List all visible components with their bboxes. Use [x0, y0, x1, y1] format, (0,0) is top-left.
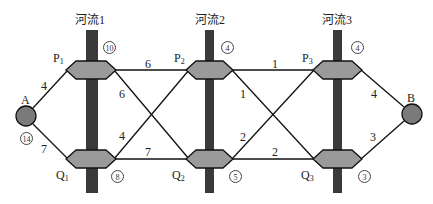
label-A: A [21, 94, 30, 106]
weight-P2-P3: 1 [272, 58, 278, 70]
bridge-P1 [66, 61, 116, 79]
capacity-Q3: 3 [358, 170, 371, 183]
label-B: B [407, 92, 415, 104]
weight-Q2-Q3: 2 [272, 146, 278, 158]
label-P1-main: P [53, 51, 60, 65]
weight-P1-Q2: 6 [119, 88, 125, 100]
node-A [16, 106, 36, 126]
label-P1: P1 [53, 52, 64, 68]
edge-Q3-B [361, 121, 404, 159]
weight-Q3-B: 3 [370, 131, 376, 143]
label-Q2: Q2 [172, 169, 185, 185]
capacity-P2: 4 [221, 41, 234, 54]
capacity-P3: 4 [351, 41, 364, 54]
river-2-label: 河流2 [195, 14, 225, 26]
label-P3: P3 [302, 52, 313, 68]
label-Q1: Q1 [56, 169, 69, 185]
label-Q3: Q3 [301, 169, 314, 185]
river-3-label: 河流3 [322, 14, 352, 26]
edge-A-P1 [33, 70, 68, 108]
weight-P2-Q3: 1 [240, 88, 246, 100]
weight-Q1-Q2: 7 [145, 146, 151, 158]
capacity-Q1: 8 [111, 170, 124, 183]
label-Q1-sub: 1 [65, 174, 69, 183]
weight-P3-B: 4 [371, 88, 377, 100]
river-1-label: 河流1 [75, 14, 105, 26]
weight-Q1-P2: 4 [119, 130, 125, 142]
weight-Q2-P3: 2 [240, 131, 246, 143]
label-Q2-sub: 2 [181, 174, 185, 183]
bridge-P3 [313, 61, 362, 79]
weight-A-Q1: 7 [41, 143, 47, 155]
edge-P3-B [361, 70, 404, 107]
label-Q3-sub: 3 [310, 174, 314, 183]
label-Q3-main: Q [301, 168, 310, 182]
weight-P1-P2: 6 [145, 58, 151, 70]
bridge-Q1 [66, 150, 116, 168]
capacity-A: 14 [20, 132, 33, 145]
capacity-Q2: 5 [229, 170, 242, 183]
label-P2-sub: 2 [181, 57, 185, 66]
weight-A-P1: 4 [41, 80, 47, 92]
label-P2: P2 [174, 52, 185, 68]
label-P2-main: P [174, 51, 181, 65]
label-P3-sub: 3 [309, 57, 313, 66]
label-Q2-main: Q [172, 168, 181, 182]
node-B [402, 104, 422, 124]
edge-A-Q1 [33, 124, 68, 159]
bridge-Q2 [186, 150, 233, 168]
label-P1-sub: 1 [60, 57, 64, 66]
label-P3-main: P [302, 51, 309, 65]
capacity-P1: 10 [103, 41, 116, 54]
bridge-Q3 [313, 150, 362, 168]
bridge-P2 [186, 61, 233, 79]
label-Q1-main: Q [56, 168, 65, 182]
